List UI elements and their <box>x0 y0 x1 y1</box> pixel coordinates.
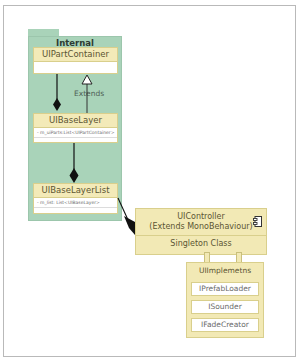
generalization-arrow-icon <box>82 75 92 84</box>
composition-diamond-icon <box>70 168 79 183</box>
composition-diamond-icon <box>124 216 135 235</box>
composition-diamond-icon <box>53 98 61 111</box>
relation-lines <box>0 0 300 362</box>
